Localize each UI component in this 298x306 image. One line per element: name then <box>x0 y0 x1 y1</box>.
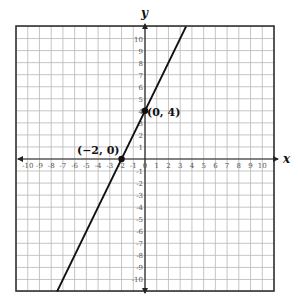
point-label: (0, 4) <box>147 106 180 119</box>
y-tick-label: -8 <box>136 252 143 260</box>
y-tick-label: -5 <box>136 216 143 224</box>
y-tick-label: -1 <box>136 168 143 176</box>
x-tick-label: 6 <box>213 162 218 170</box>
coordinate-plane: -10-9-8-7-6-5-4-3-2-1012345678910-10-9-8… <box>0 0 298 306</box>
x-tick-label: -6 <box>71 162 78 170</box>
x-tick-label: 4 <box>190 162 195 170</box>
x-tick-label: -8 <box>48 162 55 170</box>
point-label: (−2, 0) <box>77 144 120 157</box>
y-tick-label: 8 <box>139 60 143 68</box>
x-tick-label: 0 <box>143 162 147 170</box>
x-tick-label: 2 <box>166 162 170 170</box>
x-tick-label: -7 <box>59 162 66 170</box>
x-tick-label: -3 <box>106 162 113 170</box>
y-axis-label: y <box>140 6 149 20</box>
y-tick-label: 7 <box>139 72 143 80</box>
x-tick-label: 5 <box>201 162 205 170</box>
x-tick-label: 8 <box>237 162 241 170</box>
x-tick-label: 10 <box>258 162 267 170</box>
y-tick-label: -6 <box>136 228 143 236</box>
y-tick-label: 10 <box>134 36 143 44</box>
y-tick-label: 6 <box>139 84 144 92</box>
y-tick-label: -2 <box>136 180 143 188</box>
x-tick-label: 7 <box>225 162 229 170</box>
x-axis-label: x <box>282 152 291 166</box>
y-tick-label: -7 <box>136 240 143 248</box>
x-tick-label: -9 <box>36 162 43 170</box>
x-tick-label: 3 <box>178 162 182 170</box>
y-tick-label: -9 <box>136 264 143 272</box>
y-tick-label: 1 <box>139 144 143 152</box>
x-axis-arrow-right-icon <box>273 156 279 162</box>
x-tick-label: -4 <box>95 162 102 170</box>
x-tick-label: 1 <box>154 162 158 170</box>
y-tick-label: 5 <box>139 96 143 104</box>
y-tick-label: -3 <box>136 192 143 200</box>
y-tick-label: -4 <box>136 204 143 212</box>
x-tick-label: -10 <box>22 162 33 170</box>
y-tick-label: -10 <box>132 276 143 284</box>
y-tick-label: 9 <box>139 48 143 56</box>
y-tick-label: 2 <box>139 132 143 140</box>
x-tick-label: 9 <box>248 162 252 170</box>
x-tick-label: -5 <box>83 162 90 170</box>
